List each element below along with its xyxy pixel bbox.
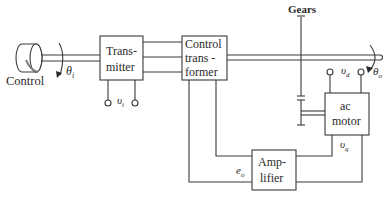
theta-o-label: θo [373, 65, 382, 80]
control-knob [16, 44, 42, 72]
vd-label: υd [341, 64, 350, 79]
terminal-vi-left [105, 100, 111, 106]
ct-label-3: former [185, 65, 218, 79]
ct-to-amp-wire-outer [189, 80, 252, 182]
terminal-vd-right [358, 69, 364, 75]
ct-label-1: Control [185, 37, 222, 51]
servo-system-diagram: Control θi Trans- mitter υi Control tran… [0, 0, 388, 201]
amp-to-motor-wire-outer [296, 135, 362, 182]
theta-i-label: θi [66, 64, 74, 80]
amplifier-label-1: Amp- [258, 155, 286, 169]
motor-label-1: ac [340, 99, 351, 113]
shaft-end [380, 55, 383, 60]
rotation-arrow-input [59, 43, 63, 75]
vi-label: υi [117, 94, 124, 109]
gears-label: Gears [288, 3, 317, 15]
ct-to-amp-wire-inner [216, 80, 252, 156]
transmitter-label-1: Trans- [106, 44, 137, 58]
terminal-vd-left [327, 69, 333, 75]
eo-label: eo [236, 164, 245, 179]
amp-to-motor-wire-inner [296, 135, 332, 156]
vq-label: υq [340, 138, 349, 153]
transmitter-label-2: mitter [106, 60, 135, 74]
control-label: Control [6, 74, 45, 88]
motor-label-2: motor [332, 114, 361, 128]
amplifier-label-2: lifier [260, 171, 283, 185]
ct-label-2: trans - [185, 51, 215, 65]
terminal-vi-right [132, 100, 138, 106]
